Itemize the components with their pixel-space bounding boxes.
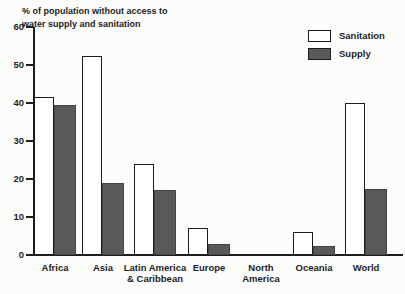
y-tick [26,64,33,66]
bar-europe-supply [208,244,230,255]
bar-africa-sanitation [34,97,54,255]
y-tick-label: 30 [2,135,24,146]
bar-latin-america-caribbean-supply [154,190,176,255]
bar-world-sanitation [345,103,365,255]
bar-asia-sanitation [82,56,102,256]
bar-oceania-supply [313,246,335,256]
y-tick [26,140,33,142]
y-tick [26,102,33,104]
bar-latin-america-caribbean-sanitation [134,164,154,255]
bar-europe-sanitation [188,228,208,255]
bar-africa-supply [54,105,76,255]
plot-area: 0102030405060AfricaAsiaLatin America& Ca… [0,0,405,294]
y-tick-label: 10 [2,211,24,222]
y-tick-label: 20 [2,173,24,184]
y-tick-label: 50 [2,59,24,70]
y-tick [26,216,33,218]
bar-asia-supply [102,183,124,255]
y-tick-label: 40 [2,97,24,108]
y-tick-label: 60 [2,21,24,32]
bar-oceania-sanitation [293,232,313,255]
y-tick [26,254,33,256]
y-tick [26,26,33,28]
bar-world-supply [365,189,387,256]
x-label-world: World [326,262,405,273]
y-tick-label: 0 [2,249,24,260]
y-tick [26,178,33,180]
chart-figure: % of population without access to water … [0,0,405,294]
